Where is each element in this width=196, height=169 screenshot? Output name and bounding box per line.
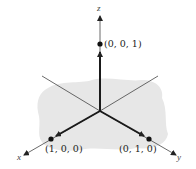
- point-0-0-1: [97, 41, 102, 46]
- axes-drawing: [0, 0, 196, 169]
- z-axis-label: z: [97, 4, 101, 13]
- point-1-0-0: [48, 136, 53, 141]
- y-axis-label: y: [177, 153, 181, 162]
- point-label-0-1-0: (0, 1, 0): [119, 144, 157, 154]
- point-0-1-0: [146, 136, 151, 141]
- point-label-1-0-0: (1, 0, 0): [45, 144, 83, 154]
- point-label-0-0-1: (0, 0, 1): [104, 39, 142, 49]
- coordinate-diagram: z x y (0, 0, 1) (1, 0, 0) (0, 1, 0): [0, 0, 196, 169]
- x-axis-label: x: [17, 153, 21, 162]
